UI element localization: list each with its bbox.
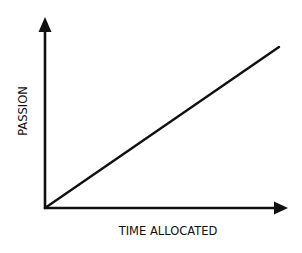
y-axis-label: PASSION — [16, 86, 30, 136]
x-axis-label: TIME ALLOCATED — [118, 224, 218, 238]
diagram-canvas: TIME ALLOCATED PASSION — [0, 0, 302, 253]
x-axis-arrow-icon — [274, 202, 288, 215]
chart-svg: TIME ALLOCATED PASSION — [0, 0, 302, 253]
y-axis-arrow-icon — [39, 17, 52, 32]
trend-line — [45, 47, 279, 208]
